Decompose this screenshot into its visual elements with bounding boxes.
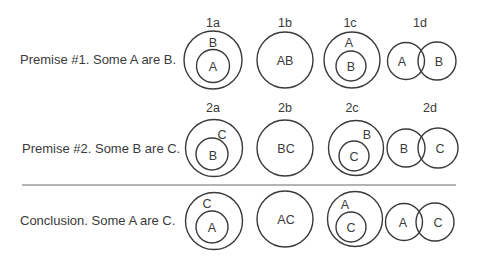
column-label-1b: 1b <box>278 16 292 30</box>
diagram-2a: 2a C B <box>186 101 243 177</box>
column-label-2b: 2b <box>278 101 292 115</box>
premise-2-row: Premise #2. Some B are C. 2a C B 2b BC 2… <box>22 101 458 177</box>
outer-set-label: A <box>345 36 354 50</box>
diagram-2d: 2d B C <box>387 101 458 168</box>
outer-set-label: B <box>209 36 217 50</box>
column-label-1c: 1c <box>343 16 356 30</box>
diagram-2c: 2c B C <box>329 101 384 176</box>
inner-set-label: A <box>209 60 218 74</box>
diagram-1c: 1c A B <box>324 16 380 88</box>
right-set-label: C <box>433 216 442 230</box>
right-set-label: C <box>435 142 444 156</box>
column-label-2d: 2d <box>423 101 437 115</box>
column-label-2c: 2c <box>345 101 358 115</box>
outer-set-label: B <box>363 128 371 142</box>
outer-set-label: A <box>341 198 350 212</box>
premise-2-label: Premise #2. Some B are C. <box>22 141 180 156</box>
column-label-1d: 1d <box>413 16 427 30</box>
outer-circle <box>328 192 383 247</box>
combined-set-label: AB <box>277 54 294 68</box>
column-label-2a: 2a <box>206 101 220 115</box>
conclusion-diagram-c: A C <box>328 192 383 247</box>
euler-diagram: Premise #1. Some A are B. 1a B A 1b AB 1… <box>0 0 478 261</box>
outer-circle <box>186 120 243 177</box>
left-set-label: B <box>400 142 408 156</box>
inner-set-label: B <box>209 149 217 163</box>
diagram-1d: 1d A B <box>388 16 457 80</box>
conclusion-diagram-a: C A <box>186 193 243 250</box>
combined-set-label: AC <box>277 213 294 227</box>
inner-set-label: A <box>208 221 217 235</box>
diagram-1b: 1b AB <box>257 16 313 88</box>
column-label-1a: 1a <box>206 16 220 30</box>
conclusion-diagram-b: AC <box>257 191 313 247</box>
outer-set-label: C <box>202 197 211 211</box>
left-set-label: A <box>398 55 407 69</box>
combined-set-label: BC <box>277 142 294 156</box>
inner-set-label: C <box>346 221 355 235</box>
inner-set-label: C <box>349 150 358 164</box>
conclusion-row: Conclusion. Some A are C. C A AC A C A C <box>20 191 454 250</box>
outer-set-label: C <box>217 128 226 142</box>
diagram-1a: 1a B A <box>184 16 242 89</box>
diagram-2b: 2b BC <box>257 101 313 176</box>
conclusion-diagram-d: A C <box>386 203 455 241</box>
conclusion-label: Conclusion. Some A are C. <box>20 213 175 228</box>
inner-set-label: B <box>347 60 355 74</box>
left-set-label: A <box>399 216 408 230</box>
premise-1-row: Premise #1. Some A are B. 1a B A 1b AB 1… <box>20 16 456 89</box>
outer-circle <box>329 121 384 176</box>
premise-1-label: Premise #1. Some A are B. <box>20 52 176 67</box>
right-set-label: B <box>435 55 443 69</box>
